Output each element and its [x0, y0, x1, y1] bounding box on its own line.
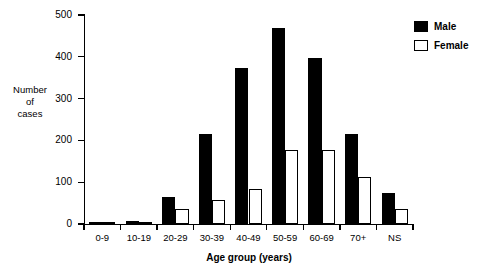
bar-male-70-: [345, 134, 358, 224]
x-tick-mark: [156, 224, 157, 230]
legend-label-female: Female: [434, 40, 468, 51]
bar-male-10-19: [126, 221, 139, 224]
bar-male-30-39: [199, 134, 212, 224]
bar-female-70-: [358, 177, 371, 224]
x-tick-mark: [412, 224, 413, 230]
bar-chart-figure: Number of cases 0100200300400500 0-910-1…: [0, 0, 480, 275]
bar-female-50-59: [285, 150, 298, 224]
x-tick-mark: [266, 224, 267, 230]
y-axis-title-line-3: cases: [2, 108, 58, 120]
x-tick-label-ns: NS: [365, 232, 425, 243]
chart-legend: MaleFemale: [414, 17, 468, 55]
bar-female-0-9: [102, 222, 115, 224]
bar-male-ns: [382, 193, 395, 224]
y-tick-label: 200: [0, 135, 72, 145]
x-tick-mark: [230, 224, 231, 230]
x-tick-mark: [339, 224, 340, 230]
x-tick-mark: [303, 224, 304, 230]
y-tick-label: 100: [0, 177, 72, 187]
legend-swatch-female-icon: [414, 40, 428, 51]
y-tick-label: 400: [0, 52, 72, 62]
plot-area: [84, 15, 413, 224]
bar-male-50-59: [272, 28, 285, 224]
x-tick-mark: [193, 224, 194, 230]
legend-swatch-male-icon: [414, 21, 428, 32]
y-tick-label: 300: [0, 94, 72, 104]
bar-female-60-69: [322, 150, 335, 224]
y-tick-label: 500: [0, 10, 72, 20]
legend-item-male: Male: [414, 17, 468, 36]
bar-female-20-29: [175, 209, 188, 224]
x-tick-mark: [120, 224, 121, 230]
legend-item-female: Female: [414, 36, 468, 55]
bar-female-30-39: [212, 200, 225, 224]
bar-female-10-19: [139, 222, 152, 225]
x-tick-mark: [376, 224, 377, 230]
x-tick-mark: [83, 224, 84, 230]
bar-male-60-69: [308, 58, 321, 224]
bar-male-20-29: [162, 197, 175, 224]
bar-female-40-49: [249, 189, 262, 224]
bar-male-40-49: [235, 68, 248, 224]
y-tick-label: 0: [0, 219, 72, 229]
bar-female-ns: [395, 209, 408, 224]
legend-label-male: Male: [434, 21, 456, 32]
bar-male-0-9: [89, 222, 102, 224]
x-axis-title: Age group (years): [84, 252, 414, 263]
